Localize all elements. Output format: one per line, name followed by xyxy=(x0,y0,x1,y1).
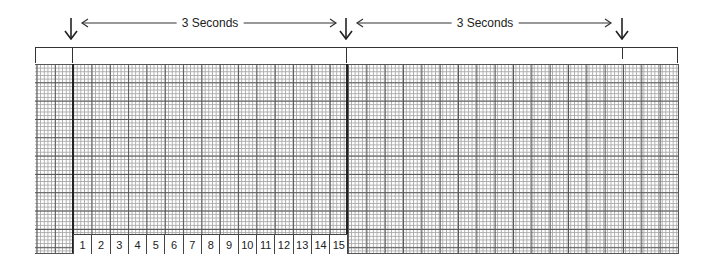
count-cell: 8 xyxy=(202,235,220,254)
interval-2-label: 3 Seconds xyxy=(452,14,519,32)
ecg-grid-paper xyxy=(35,64,679,254)
count-cell: 12 xyxy=(275,235,293,254)
count-cell: 9 xyxy=(220,235,238,254)
count-cell: 5 xyxy=(147,235,165,254)
large-square-count-strip: 1 2 3 4 5 6 7 8 9 10 11 12 13 14 15 xyxy=(73,234,348,254)
count-cell: 3 xyxy=(111,235,129,254)
marker-line-2 xyxy=(346,64,348,253)
bracket-tick-left-end xyxy=(35,47,36,63)
bracket-tick-marker-1 xyxy=(72,47,73,63)
top-bracket xyxy=(35,47,678,48)
down-arrow-icon xyxy=(615,18,629,40)
count-cell: 7 xyxy=(184,235,202,254)
count-cell: 1 xyxy=(73,235,92,254)
count-cell: 15 xyxy=(330,235,348,254)
count-cell: 11 xyxy=(257,235,275,254)
down-arrow-icon xyxy=(64,18,78,40)
count-cell: 10 xyxy=(239,235,257,254)
count-cell: 4 xyxy=(129,235,147,254)
count-cell: 2 xyxy=(92,235,110,254)
bracket-tick-marker-3 xyxy=(622,47,623,59)
interval-1-span: 3 Seconds xyxy=(80,14,338,32)
interval-1-label: 3 Seconds xyxy=(177,14,244,32)
marker-line-1 xyxy=(72,64,74,253)
count-cell: 6 xyxy=(165,235,183,254)
count-cell: 14 xyxy=(312,235,330,254)
interval-2-span: 3 Seconds xyxy=(355,14,613,32)
count-cell: 13 xyxy=(294,235,312,254)
down-arrow-icon xyxy=(339,18,353,40)
bracket-tick-right-end xyxy=(677,47,678,63)
bracket-tick-marker-2 xyxy=(346,47,347,63)
